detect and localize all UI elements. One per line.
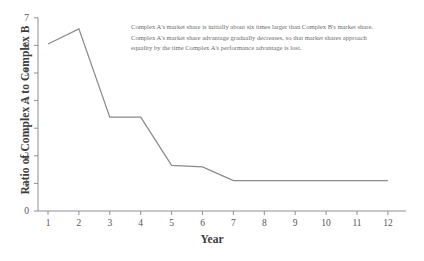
x-axis-tick-label: 6 <box>200 218 205 228</box>
y-axis-tick-label: 4 <box>24 96 29 106</box>
x-axis-tick-group: 123456789101112 <box>46 211 393 228</box>
chart-container: Ratio of Complex A to Complex B Year 012… <box>0 0 424 261</box>
x-axis-tick-label: 7 <box>231 218 236 228</box>
annotation-line-2: Complex A's market share advantage gradu… <box>131 33 415 44</box>
y-axis-tick-label: 6 <box>24 41 29 51</box>
x-axis-tick-label: 9 <box>293 218 298 228</box>
y-axis-tick-group: 01234567 <box>24 13 38 216</box>
y-axis-tick-label: 1 <box>24 179 29 189</box>
x-axis-tick-label: 5 <box>169 218 174 228</box>
y-axis-tick-label: 7 <box>24 13 29 23</box>
x-axis-tick-label: 11 <box>352 218 361 228</box>
x-axis-tick-label: 2 <box>77 218 82 228</box>
y-axis-tick-label: 0 <box>24 206 29 216</box>
annotation-text: Complex A's market share is initially ab… <box>131 22 415 54</box>
y-axis-tick-label: 3 <box>24 124 29 134</box>
x-axis-tick-label: 3 <box>107 218 112 228</box>
x-axis-tick-label: 8 <box>262 218 267 228</box>
x-axis-tick-label: 12 <box>383 218 393 228</box>
annotation-line-1: Complex A's market share is initially ab… <box>131 22 415 33</box>
x-axis-tick-label: 10 <box>321 218 331 228</box>
x-axis-tick-label: 1 <box>46 218 51 228</box>
annotation-line-3: equality by the time Complex A's perform… <box>131 43 415 54</box>
x-axis-tick-label: 4 <box>138 218 143 228</box>
y-axis-tick-label: 2 <box>24 151 29 161</box>
y-axis-tick-label: 5 <box>24 68 29 78</box>
